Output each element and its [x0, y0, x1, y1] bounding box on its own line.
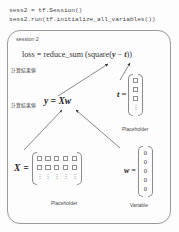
- code-line-1: sess2 = tf.Session(): [9, 6, 177, 15]
- loss-formula: loss = reduce_sum (square(y − t)): [22, 50, 132, 59]
- tensor-t-group: t = ⋮: [117, 74, 143, 114]
- tensor-x-group: X = ⋮ ⋮ ⋮ ⋮ ⋮: [14, 152, 82, 183]
- vertical-dots-icon: ⋮: [54, 174, 59, 179]
- tensor-x-symbol: X: [14, 163, 20, 173]
- cell-box: [37, 165, 42, 170]
- matrix-row: [133, 76, 138, 85]
- loss-rhs-prefix: reduce_sum (square(: [43, 50, 111, 59]
- matrix-row: 0: [143, 175, 148, 184]
- tensor-w-caption: Variable: [130, 202, 148, 208]
- tensor-w-matrix: 0 0 0 0 0: [138, 146, 153, 195]
- cell-box: [54, 165, 59, 170]
- tensor-t-equals: =: [121, 89, 126, 99]
- annotation-computed-value: 計算結果値: [11, 66, 36, 73]
- cell-box: [63, 165, 68, 170]
- vertical-dots-icon: ⋮: [63, 174, 68, 179]
- tensor-t-symbol: t: [117, 89, 119, 99]
- matrix-row: [37, 163, 77, 172]
- code-line-2: sess2.run(tf.initialize_all_variables()): [9, 15, 177, 24]
- tensor-w-group: w = 0 0 0 0 0: [124, 146, 153, 195]
- tensor-w-equals: =: [131, 166, 136, 175]
- cell-box: [133, 96, 138, 101]
- cell-value: 0: [143, 149, 148, 157]
- cell-box: [45, 156, 50, 161]
- cell-box: [54, 156, 59, 161]
- loss-var-y: y: [112, 50, 116, 59]
- matrix-row: [133, 85, 138, 94]
- cell-value: 0: [143, 176, 148, 184]
- tensor-x-equals: =: [23, 163, 28, 173]
- matrix-row: 0: [143, 148, 148, 157]
- cell-value: 0: [143, 158, 148, 166]
- vertical-dots-icon: ⋮: [133, 105, 138, 110]
- vertical-dots-icon: ⋮: [45, 174, 50, 179]
- vertical-dots-icon: ⋮: [37, 174, 42, 179]
- tensor-w-symbol: w: [124, 166, 129, 175]
- matrix-row-dots: ⋮: [133, 103, 138, 112]
- matrix-row-dots: ⋮ ⋮ ⋮ ⋮ ⋮: [37, 172, 77, 181]
- vertical-dots-icon: ⋮: [72, 174, 77, 179]
- loss-minus: −: [118, 50, 123, 59]
- tensor-t-matrix: ⋮: [128, 74, 143, 114]
- session-label: session 2: [16, 36, 39, 42]
- cell-box: [63, 156, 68, 161]
- cell-value: 0: [143, 185, 148, 193]
- diagram-page: sess2 = tf.Session() sess2.run(tf.initia…: [0, 0, 179, 232]
- loss-lhs: loss: [22, 50, 35, 59]
- cell-box: [45, 165, 50, 170]
- loss-equals: =: [37, 50, 42, 59]
- matrix-row: [133, 94, 138, 103]
- matrix-row: 0: [143, 157, 148, 166]
- annotation-computed-result: 計算結果値: [11, 101, 36, 108]
- code-block: sess2 = tf.Session() sess2.run(tf.initia…: [9, 6, 177, 24]
- loss-rhs-suffix: )): [127, 50, 132, 59]
- tensor-x-caption: Placeholder: [51, 200, 77, 206]
- y-expression: y = Xw: [44, 96, 71, 106]
- cell-value: 0: [143, 167, 148, 175]
- cell-box: [133, 87, 138, 92]
- matrix-row: 0: [143, 184, 148, 193]
- cell-box: [72, 156, 77, 161]
- matrix-row: 0: [143, 166, 148, 175]
- tensor-x-matrix: ⋮ ⋮ ⋮ ⋮ ⋮: [32, 152, 82, 183]
- cell-box: [37, 156, 42, 161]
- matrix-row: [37, 154, 77, 163]
- cell-box: [133, 78, 138, 83]
- cell-box: [72, 165, 77, 170]
- tensor-t-caption: Placeholder: [122, 126, 148, 132]
